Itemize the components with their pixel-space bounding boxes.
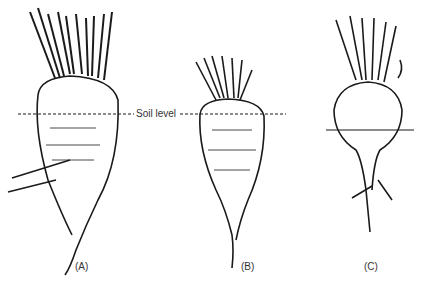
panel-label-c: (C) — [364, 261, 378, 272]
panel-label-b: (B) — [241, 261, 254, 272]
root-c-leaves — [336, 16, 402, 82]
root-a-leaves — [30, 8, 112, 80]
root-c-body — [334, 82, 402, 232]
root-b-body — [200, 99, 264, 268]
root-a-side-root-2 — [8, 180, 56, 192]
root-a-body — [37, 76, 118, 275]
root-b-drawing — [196, 56, 264, 268]
panel-label-a: (A) — [75, 261, 88, 272]
root-a-drawing — [8, 8, 118, 275]
root-diagram — [0, 0, 424, 281]
root-c-drawing — [334, 16, 402, 232]
soil-level-label: Soil level — [136, 108, 176, 119]
root-a-side-root-1 — [12, 160, 70, 178]
root-b-leaves — [196, 56, 252, 100]
